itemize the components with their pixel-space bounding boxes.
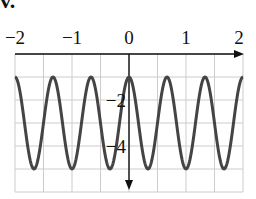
svg-text:−2: −2 <box>106 90 126 111</box>
chart: −2−1012−2−4 <box>0 0 256 199</box>
svg-text:−2: −2 <box>5 27 25 48</box>
svg-text:2: 2 <box>234 27 244 48</box>
svg-text:−1: −1 <box>62 27 82 48</box>
svg-text:1: 1 <box>181 27 191 48</box>
svg-text:−4: −4 <box>106 136 127 157</box>
svg-text:0: 0 <box>124 27 134 48</box>
